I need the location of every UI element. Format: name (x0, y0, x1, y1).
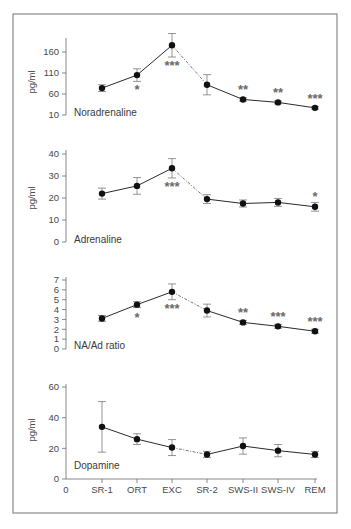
data-point (99, 315, 105, 321)
data-point (275, 199, 281, 205)
y-tick-label: 4 (54, 304, 59, 315)
y-axis-label: pg/ml (26, 70, 37, 93)
y-tick-label: 2 (54, 324, 59, 335)
data-point (134, 436, 140, 442)
y-tick-label: 60 (48, 381, 59, 392)
y-tick-label: 10 (48, 109, 59, 120)
y-tick-label: 160 (43, 46, 59, 57)
y-axis-label: pg/ml (26, 186, 37, 209)
x-tick-label: REM (304, 484, 325, 495)
y-tick-label: 60 (48, 88, 59, 99)
data-point (240, 443, 246, 449)
data-point (312, 451, 318, 457)
significance-marker: ** (238, 82, 249, 97)
significance-marker: *** (270, 309, 286, 324)
y-tick-label: 7 (54, 274, 59, 285)
data-point (134, 301, 140, 307)
panel-label: NA/Ad ratio (74, 340, 126, 351)
significance-marker: *** (164, 301, 180, 316)
y-tick-label: 10 (48, 214, 59, 225)
data-point (99, 85, 105, 91)
x-tick-label: ORT (127, 484, 147, 495)
significance-marker: *** (307, 314, 323, 329)
y-tick-label: 5 (54, 294, 59, 305)
significance-marker: *** (164, 179, 180, 194)
y-tick-label: 30 (48, 170, 59, 181)
data-point (204, 307, 210, 313)
significance-marker: ** (273, 85, 284, 100)
y-tick-label: 0 (54, 473, 59, 484)
significance-marker: ** (238, 305, 249, 320)
data-point (134, 183, 140, 189)
data-point (204, 451, 210, 457)
data-point (312, 204, 318, 210)
data-point (204, 82, 210, 88)
panel-label: Noradrenaline (74, 107, 137, 118)
data-point (134, 72, 140, 78)
y-tick-label: 1 (54, 333, 59, 344)
y-tick-label: 40 (48, 148, 59, 159)
significance-marker: *** (164, 58, 180, 73)
data-point (169, 444, 175, 450)
y-axis-label: pg/ml (26, 418, 37, 441)
x-tick-label: SWS-II (228, 484, 258, 495)
figure: 1060110160pg/mlNoradrenaline***********0… (0, 0, 351, 529)
y-tick-label: 110 (44, 67, 59, 78)
y-tick-label: 0 (54, 236, 59, 247)
data-point (275, 447, 281, 453)
data-point (99, 424, 105, 430)
significance-marker: *** (307, 91, 323, 106)
x-tick-label: 0 (63, 484, 68, 495)
data-point (99, 190, 105, 196)
figure-frame (13, 14, 337, 513)
panel-label: Adrenaline (74, 234, 122, 245)
y-tick-label: 40 (48, 412, 59, 423)
y-tick-label: 20 (48, 443, 59, 454)
x-tick-label: EXC (162, 484, 182, 495)
data-point (169, 42, 175, 48)
panel-label: Dopamine (74, 460, 120, 471)
data-point (169, 289, 175, 295)
x-tick-label: SWS-IV (261, 484, 295, 495)
y-tick-label: 0 (54, 343, 59, 354)
data-point (204, 196, 210, 202)
data-point (240, 200, 246, 206)
y-tick-label: 3 (54, 314, 59, 325)
y-tick-label: 6 (54, 284, 59, 295)
x-tick-label: SR-2 (196, 484, 218, 495)
y-tick-label: 20 (48, 192, 59, 203)
x-tick-label: SR-1 (91, 484, 113, 495)
data-point (169, 165, 175, 171)
